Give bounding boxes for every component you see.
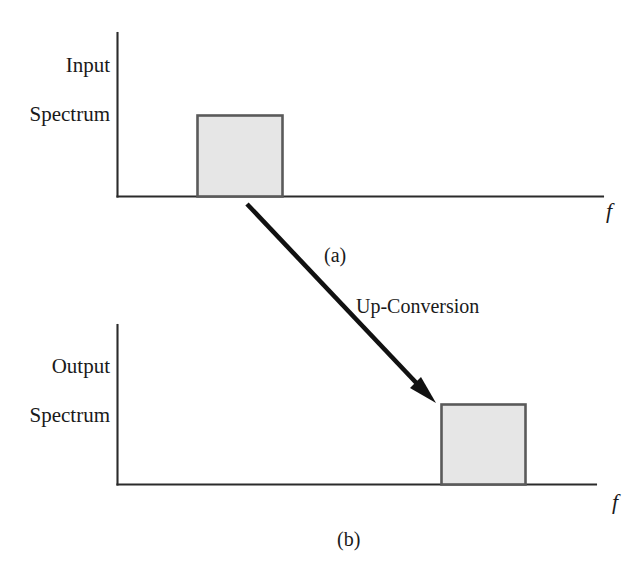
up-conversion-label-text: Up-Conversion (356, 295, 479, 317)
panel-a-caption-text: (a) (324, 244, 346, 266)
panel-a-y-axis-label: Input Spectrum (18, 29, 110, 175)
panel-a-y-axis-label-line1: Input (66, 53, 110, 77)
panel-a-caption: (a) (324, 244, 346, 267)
panel-a-input-band (198, 116, 283, 197)
figure-root: Input Spectrum f (a) Up-Conversion Outpu… (0, 0, 629, 561)
panel-a-y-axis-label-line2: Spectrum (18, 102, 110, 126)
up-conversion-label: Up-Conversion (356, 295, 479, 318)
panel-a-axes (118, 33, 604, 197)
panel-b-x-axis-label: f (612, 489, 618, 515)
panel-b-x-axis-label-text: f (612, 489, 618, 514)
panel-b-y-axis-label: Output Spectrum (12, 330, 110, 476)
panel-b-caption: (b) (337, 528, 360, 551)
panel-a-x-axis-label: f (606, 198, 612, 224)
panel-b-output-band (442, 405, 526, 485)
panel-b-caption-text: (b) (337, 528, 360, 550)
panel-b-y-axis-label-line2: Spectrum (12, 403, 110, 427)
panel-a-x-axis-label-text: f (606, 198, 612, 223)
panel-b-y-axis-label-line1: Output (52, 354, 110, 378)
